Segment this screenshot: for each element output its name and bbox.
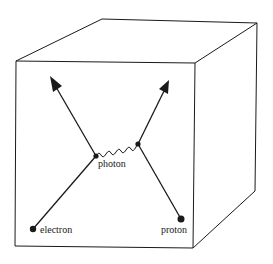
dots [30, 141, 185, 232]
box-right-face [193, 23, 257, 248]
right-vertex-dot [135, 141, 140, 146]
electron-dot [30, 226, 36, 232]
electron-incoming-line [33, 156, 96, 229]
proton-outgoing-line [138, 91, 164, 144]
electron-label: electron [40, 225, 72, 235]
box-3d [15, 19, 257, 248]
arrowheads [50, 76, 169, 94]
electron-arrowhead-icon [50, 76, 62, 92]
proton-incoming-line [138, 144, 181, 219]
proton-label: proton [161, 225, 187, 235]
photon-wavy-line [96, 143, 138, 157]
box-top-face [16, 19, 257, 63]
electron-outgoing-line [56, 87, 96, 156]
proton-dot [178, 216, 185, 223]
photon-label: photon [98, 159, 126, 169]
